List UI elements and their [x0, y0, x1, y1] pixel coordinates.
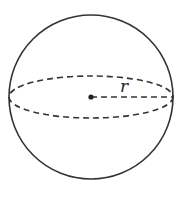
- sphere-diagram: r: [0, 0, 184, 197]
- center-point: [88, 94, 93, 99]
- radius-label: r: [120, 76, 129, 96]
